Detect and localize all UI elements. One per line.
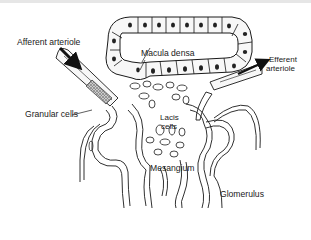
label-granular-cells: Granular cells (25, 110, 78, 119)
label-mesangium: Mesangium (150, 164, 194, 173)
label-lacis-line2: cells (161, 122, 177, 131)
label-macula-densa: Macula densa (141, 49, 195, 58)
label-afferent-arteriole: Afferent arteriole (17, 38, 80, 47)
label-efferent-line2: arteriole (266, 64, 295, 73)
label-lacis-line1: Lacis (160, 113, 179, 122)
label-glomerulus: Glomerulus (220, 190, 264, 199)
label-efferent-line1: Efferent (269, 55, 297, 64)
